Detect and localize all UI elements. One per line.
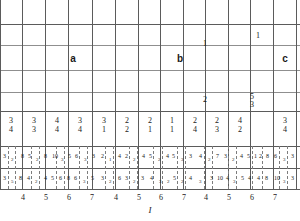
digit-cell: 2 (232, 157, 235, 163)
digit-cell: 3 (92, 153, 95, 159)
ts-denominator: 4 (184, 126, 206, 135)
digit-cell: 4 (44, 175, 47, 181)
mid-mark-3: 3 (245, 101, 259, 109)
digit-cell: 2 (36, 157, 39, 163)
digit-cell: 5 (247, 153, 250, 159)
digit-cell: 3 (84, 157, 87, 163)
digit-cell: 6 (59, 175, 62, 181)
digit-cell: 4 (226, 175, 229, 181)
axis-tick-label: 6 (59, 193, 79, 202)
subdivider (64, 146, 65, 189)
digit-cell: 8 (21, 153, 24, 159)
figure-grid: a b c 1 1 2 5 3 34 33 44 34 31 22 21 11 … (0, 0, 300, 221)
digit-cell: 5 (11, 179, 14, 185)
ts-denominator: 2 (116, 126, 138, 135)
subdivider (279, 146, 280, 189)
grid-vline-4 (92, 0, 93, 189)
digit-cell: 7 (216, 153, 219, 159)
digit-cell: 5 (91, 175, 94, 181)
subdivider (185, 146, 186, 189)
axis-tick-label: 4 (13, 193, 33, 202)
subdivider (105, 146, 106, 189)
digit-cell: 3 (61, 157, 64, 163)
grid-vline-13 (296, 0, 297, 189)
digit-cell: 8 (19, 175, 22, 181)
time-signature: 44 (46, 117, 68, 134)
digit-cell: 6 (274, 153, 277, 159)
digit-cell: 1 (254, 153, 257, 159)
digit-cell: 3 (283, 157, 286, 163)
digit-cell: 1 (109, 157, 112, 163)
time-signature: 24 (184, 117, 206, 134)
digit-cell: 3 (291, 153, 294, 159)
digit-cell: 3 (125, 175, 128, 181)
time-signature: 22 (116, 117, 138, 134)
digit-cell: 3 (224, 153, 227, 159)
grid-vline-6 (138, 0, 139, 189)
ts-denominator: 1 (139, 126, 161, 135)
ts-denominator: 3 (206, 126, 228, 135)
digit-cell: 8 (44, 153, 47, 159)
axis-tick-label: 7 (174, 193, 194, 202)
subdivider (228, 146, 229, 189)
digit-cell: 6 (74, 175, 77, 181)
digit-cell: 2 (181, 179, 184, 185)
axis-tick-label: 5 (36, 193, 56, 202)
subdivider (39, 146, 40, 189)
region-label-b: b (173, 54, 187, 64)
digit-cell: 3 (233, 179, 236, 185)
subdivider (113, 146, 114, 189)
subdivider (212, 146, 213, 189)
time-signature: 23 (206, 117, 228, 134)
time-signature: 11 (161, 117, 183, 134)
digit-cell: 6 (75, 153, 78, 159)
time-signature: 21 (139, 117, 161, 134)
region-label-c: c (278, 54, 292, 64)
subdivider (137, 146, 138, 189)
digit-cell: 4 (118, 153, 121, 159)
digit-cell: 5 (28, 153, 31, 159)
digit-cell: 3 (210, 175, 213, 181)
grid-vline-2 (45, 0, 46, 189)
subdivider (15, 146, 16, 189)
digit-cell: 4 (257, 175, 260, 181)
subdivider (177, 146, 178, 189)
subdivider (252, 146, 253, 189)
subdivider (162, 146, 163, 189)
time-signature: 33 (23, 117, 45, 134)
subdivider (236, 146, 237, 189)
digit-cell: 2 (208, 157, 211, 163)
digit-cell: 3 (283, 179, 286, 185)
digit-cell: 5 (68, 153, 71, 159)
ts-denominator: 4 (69, 126, 91, 135)
digit-cell: 5 (241, 175, 244, 181)
digit-cell: 2 (133, 179, 136, 185)
subdivider (204, 146, 205, 189)
mid-mark-2: 2 (198, 96, 212, 104)
subdivider (262, 146, 263, 189)
digit-cell: 4 (166, 153, 169, 159)
digit-cell: 5 (149, 153, 152, 159)
digit-cell: 4 (189, 175, 192, 181)
ts-denominator: 1 (93, 126, 115, 135)
grid-vline-12 (273, 0, 274, 189)
subdivider (8, 146, 9, 189)
subdivider (129, 146, 130, 189)
upper-mark-2: 1 (251, 32, 265, 40)
digit-cell: 2 (167, 179, 170, 185)
ts-denominator: 1 (161, 126, 183, 135)
digit-cell: 2 (125, 153, 128, 159)
digit-cell: 5 (51, 175, 54, 181)
digit-cell: 3 (291, 175, 294, 181)
axis-tick-label: 4 (106, 193, 126, 202)
grid-vline-3 (68, 0, 69, 189)
digit-cell: 3 (141, 175, 144, 181)
digit-cell: 4 (150, 175, 153, 181)
grid-vline-1 (22, 0, 23, 189)
subdivider (31, 146, 32, 189)
digit-cell: 4 (248, 175, 251, 181)
grid-hline-bottom (0, 189, 300, 190)
digit-cell: 4 (142, 153, 145, 159)
ts-denominator: 4 (0, 126, 22, 135)
axis-tick-label: 4 (196, 193, 216, 202)
